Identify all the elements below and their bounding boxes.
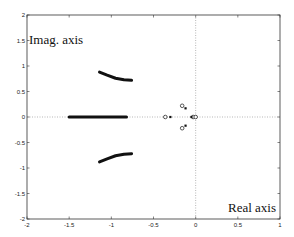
svg-text:1.5: 1.5 (17, 38, 26, 44)
svg-text:1: 1 (22, 63, 26, 69)
svg-text:0.5: 0.5 (234, 222, 243, 228)
svg-text:-0.5: -0.5 (148, 222, 159, 228)
svg-text:-1: -1 (20, 165, 26, 171)
svg-text:1: 1 (278, 222, 282, 228)
y-axis-label: Imag. axis (29, 32, 83, 47)
svg-text:-1.5: -1.5 (64, 222, 75, 228)
svg-text:2: 2 (22, 12, 26, 18)
svg-text:0: 0 (22, 114, 26, 120)
data-series (69, 72, 197, 162)
svg-text:-2: -2 (24, 222, 30, 228)
svg-text:-0.5: -0.5 (15, 140, 26, 146)
svg-text:-1.5: -1.5 (15, 191, 26, 197)
root-locus-chart: -2-1.5-1-0.500.5121.510.50-0.5-1-1.5-2 I… (0, 0, 294, 237)
svg-text:-2: -2 (20, 216, 26, 222)
x-axis-label: Real axis (228, 200, 276, 215)
svg-text:0: 0 (194, 222, 198, 228)
svg-text:0.5: 0.5 (17, 89, 26, 95)
svg-text:-1: -1 (109, 222, 115, 228)
